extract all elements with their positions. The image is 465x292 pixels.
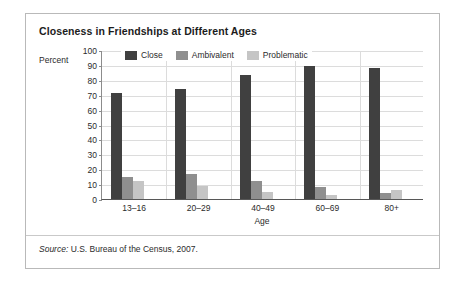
x-axis-tick-label: 13–16 [122, 203, 146, 213]
legend-item-ambivalent: Ambivalent [176, 50, 234, 60]
source-text: U.S. Bureau of the Census, 2007. [71, 244, 198, 254]
y-axis-title: Percent [39, 55, 68, 65]
x-axis-tick-label: 40–49 [251, 203, 275, 213]
figure-title: Closeness in Friendships at Different Ag… [39, 25, 257, 37]
plot-area: 100908070605040302010013–1620–2940–4960–… [101, 51, 423, 200]
bar-ambivalent [251, 181, 262, 199]
bar-close [175, 89, 186, 199]
bar-problematic [262, 192, 273, 199]
legend-label: Close [141, 50, 163, 60]
legend-item-close: Close [125, 50, 163, 60]
legend-swatch-icon [125, 51, 137, 60]
bar-close [304, 66, 315, 199]
bar-problematic [391, 190, 402, 199]
bar-group: 40–49 [231, 51, 295, 199]
x-axis-tick-label: 60–69 [316, 203, 340, 213]
bar-close [369, 68, 380, 199]
bar-group: 80+ [360, 51, 424, 199]
legend-swatch-icon [247, 51, 259, 60]
bar-problematic [197, 186, 208, 199]
bar-ambivalent [186, 174, 197, 199]
legend-label: Ambivalent [192, 50, 234, 60]
source-keyword: Source: [39, 244, 68, 254]
bar-problematic [133, 181, 144, 199]
legend-swatch-icon [176, 51, 188, 60]
figure-frame: Closeness in Friendships at Different Ag… [25, 13, 440, 269]
bar-close [111, 93, 122, 199]
bar-group: 13–16 [102, 51, 166, 199]
bar-ambivalent [122, 177, 133, 199]
bar-ambivalent [380, 193, 391, 199]
x-axis-tick-label: 20–29 [187, 203, 211, 213]
y-axis-tick-mark [99, 200, 102, 201]
bar-chart: Percent CloseAmbivalentProblematic 10090… [39, 45, 428, 225]
bar-group: 20–29 [166, 51, 230, 199]
source-note: Source: U.S. Bureau of the Census, 2007. [39, 244, 198, 254]
legend-item-problematic: Problematic [247, 50, 308, 60]
footer-divider [26, 235, 439, 236]
chart-legend: CloseAmbivalentProblematic [121, 49, 312, 61]
legend-label: Problematic [263, 50, 308, 60]
x-axis-tick-label: 80+ [385, 203, 399, 213]
bar-problematic [326, 195, 337, 199]
bar-group: 60–69 [295, 51, 359, 199]
x-axis-title: Age [101, 216, 423, 226]
bar-close [240, 75, 251, 199]
bar-ambivalent [315, 187, 326, 199]
